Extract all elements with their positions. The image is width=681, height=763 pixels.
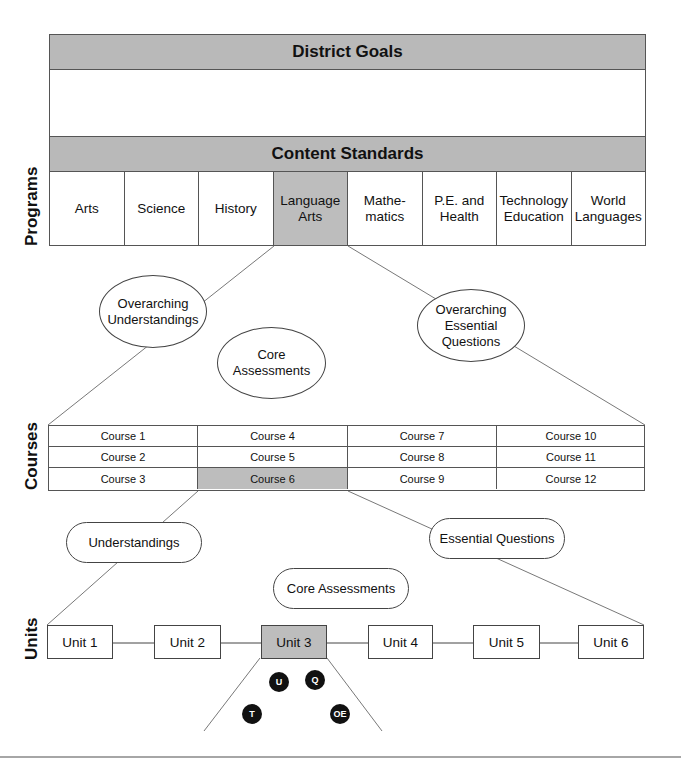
program-science[interactable]: Science: [125, 172, 200, 245]
program-pe-health[interactable]: P.E. and Health: [423, 172, 498, 245]
course-10[interactable]: Course 10: [497, 426, 645, 447]
district-goals-band: District Goals: [49, 34, 646, 70]
program-arts[interactable]: Arts: [50, 172, 125, 245]
program-world-languages[interactable]: World Languages: [572, 172, 646, 245]
program-technology-education[interactable]: Technology Education: [497, 172, 572, 245]
tasks-marker-icon: T: [242, 704, 262, 724]
unit-1[interactable]: Unit 1: [47, 625, 113, 659]
course-3[interactable]: Course 3: [49, 468, 198, 489]
overarching-essential-questions-ellipse: Overarching Essential Questions: [417, 289, 525, 362]
unit-3[interactable]: Unit 3: [261, 625, 327, 659]
program-mathematics[interactable]: Mathe- matics: [348, 172, 423, 245]
course-7[interactable]: Course 7: [348, 426, 497, 447]
programs-row: Arts Science History Language Arts Mathe…: [49, 172, 646, 246]
unit-5[interactable]: Unit 5: [473, 625, 540, 659]
course-6[interactable]: Course 6: [198, 468, 348, 489]
course-12[interactable]: Course 12: [497, 468, 645, 489]
content-standards-band: Content Standards: [49, 136, 646, 172]
courses-grid: Course 1 Course 4 Course 7 Course 10 Cou…: [48, 425, 645, 491]
course-4[interactable]: Course 4: [198, 426, 348, 447]
course-2[interactable]: Course 2: [49, 447, 198, 468]
essential-questions-pill: Essential Questions: [429, 518, 565, 559]
unit-2[interactable]: Unit 2: [154, 625, 221, 659]
understandings-marker-icon: U: [269, 672, 289, 692]
program-core-assessments-ellipse: Core Assessments: [217, 327, 326, 399]
questions-marker-icon: Q: [305, 670, 325, 690]
unit-4[interactable]: Unit 4: [368, 625, 433, 659]
program-language-arts[interactable]: Language Arts: [274, 172, 349, 245]
district-goals-title: District Goals: [292, 42, 403, 62]
understandings-pill: Understandings: [66, 522, 202, 563]
program-history[interactable]: History: [199, 172, 274, 245]
content-standards-title: Content Standards: [271, 144, 423, 164]
units-level-label: Units: [22, 618, 42, 661]
course-5[interactable]: Course 5: [198, 447, 348, 468]
courses-level-label: Courses: [22, 422, 42, 490]
other-evidence-marker-icon: OE: [330, 704, 350, 724]
course-9[interactable]: Course 9: [348, 468, 497, 489]
district-goals-body: [49, 70, 646, 136]
course-11[interactable]: Course 11: [497, 447, 645, 468]
programs-level-label: Programs: [22, 167, 42, 246]
course-8[interactable]: Course 8: [348, 447, 497, 468]
unit-6[interactable]: Unit 6: [578, 625, 644, 659]
overarching-understandings-ellipse: Overarching Understandings: [99, 275, 207, 348]
course-1[interactable]: Course 1: [49, 426, 198, 447]
course-core-assessments-pill: Core Assessments: [273, 568, 409, 609]
